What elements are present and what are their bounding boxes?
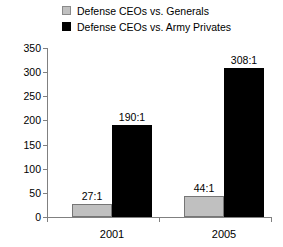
x-axis-label-2001: 2001 bbox=[100, 228, 124, 240]
y-tick-mark bbox=[43, 145, 47, 146]
legend-item-label: Defense CEOs vs. Army Privates bbox=[77, 21, 231, 33]
y-tick-label: 300 bbox=[23, 67, 41, 78]
bar-2005-generals bbox=[184, 196, 224, 217]
bar-value-label: 27:1 bbox=[82, 191, 102, 202]
y-tick-mark bbox=[43, 169, 47, 170]
x-tick-mark-center bbox=[159, 217, 160, 222]
black-square-icon bbox=[62, 22, 71, 31]
bar-2001-army-privates bbox=[112, 125, 152, 217]
y-tick-label: 200 bbox=[23, 115, 41, 126]
legend-item-army-privates: Defense CEOs vs. Army Privates bbox=[62, 19, 262, 34]
x-tick-mark-right bbox=[271, 217, 272, 222]
bar-chart: Defense CEOs vs. Generals Defense CEOs v… bbox=[0, 0, 283, 247]
y-tick-250: 250 bbox=[47, 96, 48, 97]
legend-item-label: Defense CEOs vs. Generals bbox=[77, 5, 209, 17]
y-tick-150: 150 bbox=[47, 145, 48, 146]
y-tick-50: 50 bbox=[47, 193, 48, 194]
y-tick-100: 100 bbox=[47, 169, 48, 170]
y-tick-mark bbox=[43, 48, 47, 49]
y-tick-200: 200 bbox=[47, 120, 48, 121]
y-tick-mark bbox=[43, 96, 47, 97]
legend-item-generals: Defense CEOs vs. Generals bbox=[62, 3, 262, 18]
plot-area: 0 50 100 150 200 250 300 350 bbox=[47, 48, 272, 217]
bar-2005-army-privates bbox=[224, 68, 264, 217]
y-tick-mark bbox=[43, 193, 47, 194]
y-tick-label: 0 bbox=[35, 212, 41, 223]
y-tick-mark bbox=[43, 72, 47, 73]
x-tick-mark-left bbox=[47, 217, 48, 222]
y-tick-label: 50 bbox=[29, 187, 41, 198]
chart-legend: Defense CEOs vs. Generals Defense CEOs v… bbox=[62, 3, 262, 35]
y-tick-label: 250 bbox=[23, 91, 41, 102]
y-tick-300: 300 bbox=[47, 72, 48, 73]
y-tick-mark bbox=[43, 120, 47, 121]
bar-value-label: 44:1 bbox=[194, 183, 214, 194]
bar-value-label: 190:1 bbox=[119, 112, 145, 123]
bar-2001-generals bbox=[72, 204, 112, 217]
y-tick-label: 150 bbox=[23, 139, 41, 150]
y-tick-350: 350 bbox=[47, 48, 48, 49]
bar-value-label: 308:1 bbox=[231, 55, 257, 66]
y-tick-label: 100 bbox=[23, 163, 41, 174]
y-tick-label: 350 bbox=[23, 43, 41, 54]
x-axis-label-2005: 2005 bbox=[212, 228, 236, 240]
gray-square-icon bbox=[62, 6, 71, 15]
